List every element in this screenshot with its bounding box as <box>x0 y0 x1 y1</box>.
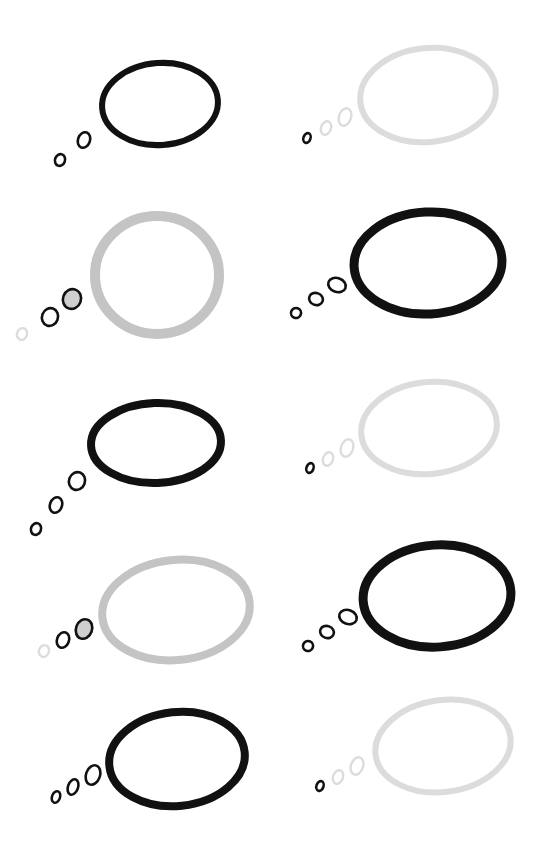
thought-bubble-sheet <box>0 0 551 864</box>
